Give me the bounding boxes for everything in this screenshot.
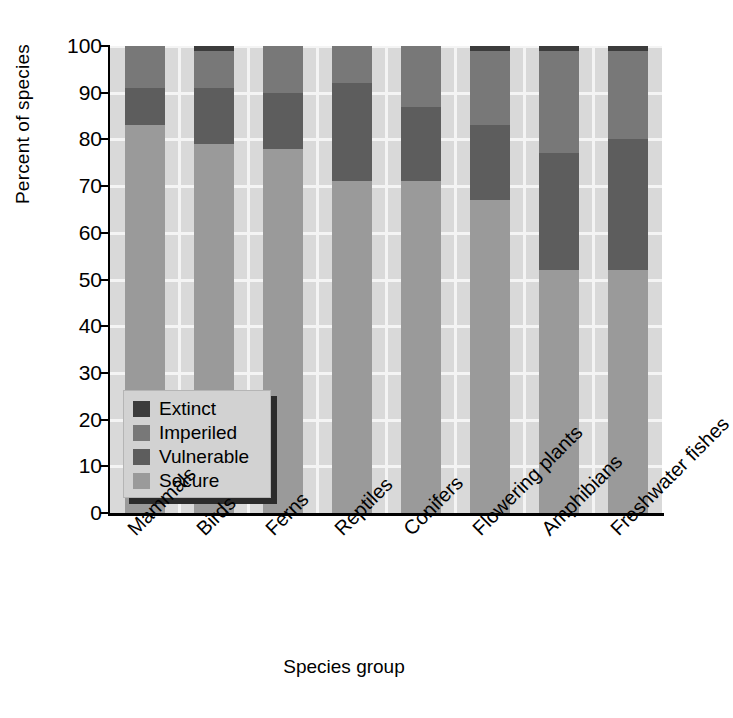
bar-segment-vulnerable [332,83,372,181]
bar-segment-extinct [194,46,234,51]
bar-segment-imperiled [539,51,579,154]
y-axis-tick-mark [100,465,110,467]
bar-segment-vulnerable [125,88,165,125]
y-axis-tick-mark [100,279,110,281]
y-axis-tick-label: 50 [40,268,102,292]
bar-segment-vulnerable [539,153,579,270]
bar-segment-imperiled [194,51,234,88]
y-axis-tick-label: 40 [40,314,102,338]
vertical-gridline [592,46,595,513]
vertical-gridline [385,46,388,513]
y-axis-tick-mark [100,232,110,234]
y-axis-tick-label: 10 [40,454,102,478]
x-axis-line [108,513,664,516]
legend-item-vulnerable[interactable]: Vulnerable [133,445,270,469]
bar-segment-imperiled [125,46,165,88]
bar-segment-imperiled [608,51,648,140]
y-axis-tick-mark [100,185,110,187]
bar-flowering-plants[interactable] [470,46,510,513]
bar-segment-secure [401,181,441,513]
y-axis-title: Percent of species [6,0,40,204]
y-axis-tick-label: 70 [40,174,102,198]
bar-segment-imperiled [332,46,372,83]
bar-segment-vulnerable [608,139,648,270]
bar-conifers[interactable] [401,46,441,513]
bar-segment-extinct [539,46,579,51]
legend-swatch-imperiled [133,425,150,441]
bar-segment-extinct [608,46,648,51]
y-axis-tick-mark [100,419,110,421]
y-axis-tick-label: 20 [40,408,102,432]
bar-segment-imperiled [263,46,303,93]
legend-swatch-extinct [133,401,150,417]
x-axis-title: Species group [0,656,688,678]
legend-item-secure[interactable]: Secure [133,469,270,493]
y-axis-tick-label: 0 [40,501,102,525]
bar-segment-extinct [470,46,510,51]
y-axis-tick-mark [100,92,110,94]
legend-swatch-vulnerable [133,449,150,465]
y-axis-tick-mark [100,138,110,140]
bar-segment-vulnerable [194,88,234,144]
legend-label: Imperiled [159,422,237,444]
legend-label: Extinct [159,398,216,420]
bar-reptiles[interactable] [332,46,372,513]
y-axis-tick-mark [100,372,110,374]
legend-item-extinct[interactable]: Extinct [133,397,270,421]
y-axis-tick-mark [100,512,110,514]
vertical-gridline [523,46,526,513]
y-axis-tick-mark [100,325,110,327]
chart-legend: ExtinctImperiledVulnerableSecure [123,390,271,498]
y-axis-tick-label: 90 [40,81,102,105]
bar-segment-vulnerable [401,107,441,182]
y-axis-tick-label: 80 [40,127,102,151]
bar-segment-secure [470,200,510,513]
bar-segment-imperiled [470,51,510,126]
vertical-gridline [454,46,457,513]
bar-freshwater-fishes[interactable] [608,46,648,513]
y-axis-tick-label: 100 [40,34,102,58]
legend-swatch-secure [133,473,150,489]
y-axis-tick-label: 30 [40,361,102,385]
bar-segment-vulnerable [470,125,510,200]
bar-segment-vulnerable [263,93,303,149]
bar-segment-secure [332,181,372,513]
y-axis-tick-label: 60 [40,221,102,245]
y-axis-tick-mark [100,45,110,47]
y-axis-tick-labels: 0102030405060708090100 [40,34,102,524]
bar-segment-imperiled [401,46,441,107]
legend-item-imperiled[interactable]: Imperiled [133,421,270,445]
legend-label: Vulnerable [159,446,249,468]
vertical-gridline [316,46,319,513]
